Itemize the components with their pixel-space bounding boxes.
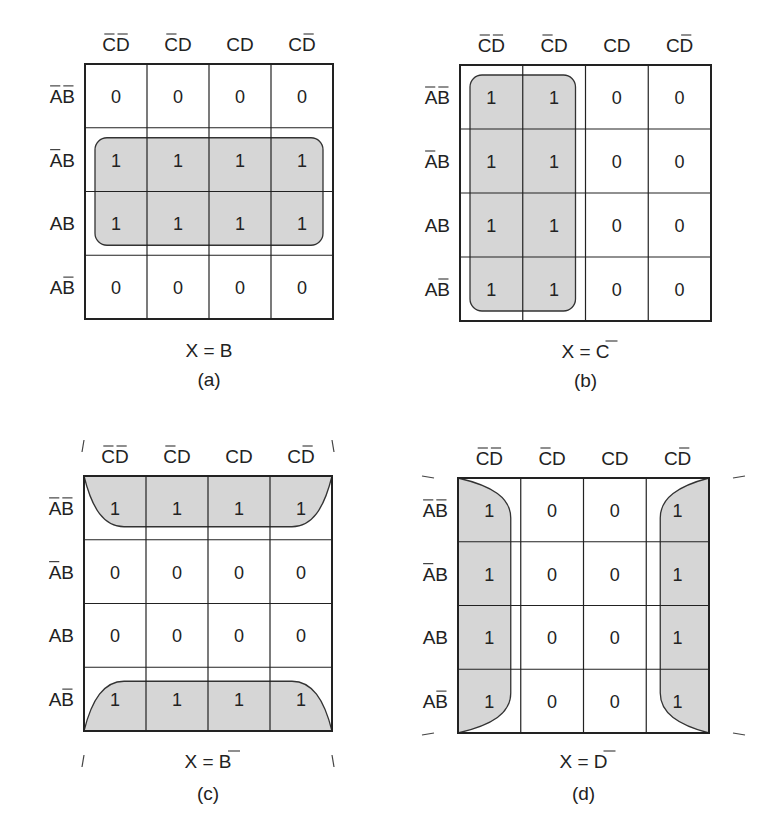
cell-value: 0	[297, 278, 307, 298]
cell-value: 1	[235, 214, 245, 234]
cell-value: 0	[610, 628, 620, 648]
column-header: CD	[664, 448, 691, 469]
row-header: AB	[49, 498, 74, 519]
cell-value: 0	[173, 87, 183, 107]
cell-value: 1	[549, 216, 559, 236]
column-header: CD	[601, 448, 628, 469]
cell-value: 1	[486, 88, 496, 108]
cell-value: 1	[297, 214, 307, 234]
cell-value: 0	[296, 563, 306, 583]
cell-value: 1	[673, 501, 683, 521]
cell-value: 1	[486, 280, 496, 300]
cell-value: 1	[484, 628, 494, 648]
cell-value: 1	[172, 499, 182, 519]
cell-value: 1	[486, 152, 496, 172]
cell-value: 0	[675, 216, 685, 236]
cell-value: 0	[675, 152, 685, 172]
column-header: CD	[478, 35, 505, 56]
row-header: AB	[49, 689, 74, 710]
cell-value: 1	[549, 152, 559, 172]
kmap-d: CDCDCDCDABABABAB1001100110011001X = D(d)	[422, 448, 745, 804]
cell-value: 0	[612, 88, 622, 108]
cell-value: 0	[612, 216, 622, 236]
cell-value: 0	[110, 563, 120, 583]
column-header: CD	[540, 35, 567, 56]
column-header: CD	[288, 34, 315, 55]
row-header: AB	[425, 151, 450, 172]
cell-value: 0	[234, 626, 244, 646]
equation-caption: X = B	[186, 340, 233, 361]
subfigure-label: (c)	[197, 783, 219, 804]
column-header: CD	[102, 34, 129, 55]
kmap-grid	[85, 64, 333, 319]
cell-value: 0	[610, 501, 620, 521]
subfigure-label: (b)	[574, 370, 597, 391]
cell-value: 1	[173, 214, 183, 234]
cell-value: 1	[484, 692, 494, 712]
wrap-mark	[733, 733, 745, 735]
equation-caption: X = B	[185, 751, 232, 772]
cell-value: 0	[296, 626, 306, 646]
column-header: CD	[225, 446, 252, 467]
row-header: AB	[425, 215, 450, 236]
cell-value: 1	[172, 690, 182, 710]
subfigure-label: (a)	[197, 369, 220, 390]
cell-value: 0	[172, 626, 182, 646]
wrap-mark	[733, 476, 745, 478]
cell-value: 0	[547, 628, 557, 648]
kmap-figure: CDCDCDCDABABABAB0000111111110000X = B(a)…	[0, 0, 770, 838]
wrap-mark	[422, 476, 434, 478]
column-header: CD	[476, 448, 503, 469]
wrap-mark	[422, 733, 434, 735]
row-header: AB	[49, 625, 74, 646]
equation-caption: X = C	[561, 341, 609, 362]
cell-value: 0	[675, 88, 685, 108]
cell-value: 0	[610, 565, 620, 585]
cell-value: 0	[111, 87, 121, 107]
row-header: AB	[425, 87, 450, 108]
cell-value: 0	[547, 501, 557, 521]
cell-value: 0	[111, 278, 121, 298]
cell-value: 1	[110, 690, 120, 710]
wrap-mark	[332, 755, 334, 767]
cell-value: 1	[111, 151, 121, 171]
cell-value: 1	[296, 499, 306, 519]
cell-value: 0	[612, 152, 622, 172]
cell-value: 0	[547, 565, 557, 585]
row-header: AB	[50, 277, 75, 298]
cell-value: 0	[547, 692, 557, 712]
cell-value: 1	[484, 501, 494, 521]
row-header: AB	[423, 500, 448, 521]
cell-value: 0	[297, 87, 307, 107]
cell-value: 0	[234, 563, 244, 583]
subfigure-label: (d)	[572, 783, 595, 804]
wrap-mark	[82, 440, 84, 452]
wrap-mark	[82, 755, 84, 767]
kmap-c: CDCDCDCDABABABAB1111000000001111X = B(c)	[49, 440, 334, 804]
column-header: CD	[164, 34, 191, 55]
cell-value: 1	[484, 565, 494, 585]
cell-value: 0	[610, 692, 620, 712]
cell-value: 0	[173, 278, 183, 298]
cell-value: 0	[235, 278, 245, 298]
cell-value: 0	[675, 280, 685, 300]
cell-value: 1	[297, 151, 307, 171]
cell-value: 0	[172, 563, 182, 583]
column-header: CD	[603, 35, 630, 56]
row-header: AB	[49, 562, 74, 583]
cell-value: 1	[549, 280, 559, 300]
kmap-a: CDCDCDCDABABABAB0000111111110000X = B(a)	[50, 34, 333, 390]
cell-value: 0	[110, 626, 120, 646]
equation-caption: X = D	[559, 751, 607, 772]
row-header: AB	[50, 86, 75, 107]
cell-value: 1	[486, 216, 496, 236]
column-header: CD	[101, 446, 128, 467]
cell-value: 1	[235, 151, 245, 171]
cell-value: 1	[549, 88, 559, 108]
cell-value: 1	[673, 565, 683, 585]
row-header: AB	[423, 691, 448, 712]
cell-value: 0	[235, 87, 245, 107]
cell-value: 1	[173, 151, 183, 171]
row-header: AB	[423, 564, 448, 585]
wrap-mark	[332, 440, 334, 452]
